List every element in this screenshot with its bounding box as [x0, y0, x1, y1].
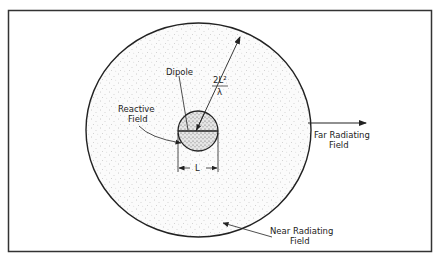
far-field-label-line1: Far Radiating: [314, 130, 370, 140]
radius-denominator-label: λ: [217, 87, 222, 97]
length-label: L: [195, 163, 200, 173]
reactive-field-label-line2: Field: [128, 114, 148, 124]
radius-numerator-label: 2L²: [213, 75, 227, 85]
near-field-label-line1: Near Radiating: [270, 226, 333, 236]
far-field-label-line2: Field: [329, 140, 349, 150]
dipole-label: Dipole: [166, 67, 193, 77]
reactive-field-label-line1: Reactive: [118, 104, 155, 114]
antenna-field-regions-diagram: Dipole 2L² λ Reactive Field L Far Radiat…: [0, 0, 440, 264]
near-field-label-line2: Field: [290, 236, 310, 246]
